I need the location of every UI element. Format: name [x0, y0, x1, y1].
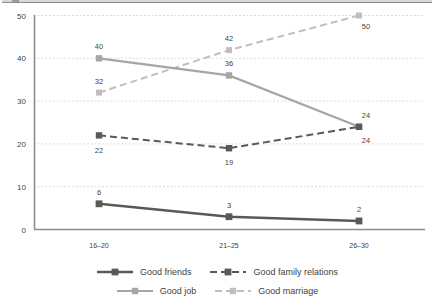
legend-item-good-marriage[interactable]: Good marriage	[214, 286, 318, 296]
series-good-friends: 6 3 2	[96, 188, 363, 224]
legend-label-good-marriage: Good marriage	[258, 286, 318, 296]
x-tick-16-20: 16–20	[89, 242, 109, 249]
legend-item-good-friends[interactable]: Good friends	[96, 267, 192, 277]
series-line-good-family-relations	[99, 127, 359, 148]
legend-item-good-family-relations[interactable]: Good family relations	[209, 267, 338, 277]
y-tick-30: 30	[17, 97, 26, 106]
legend-row-2: Good job Good marriage	[0, 281, 434, 300]
legend-item-good-job[interactable]: Good job	[116, 286, 197, 296]
data-label-good-friends-0: 6	[97, 188, 101, 197]
chart-container: 50 40 30 20 10 0 16–20 21–25 26–30 32 42…	[0, 0, 434, 301]
legend-key-dashed-light-icon	[214, 286, 252, 296]
marker-good-friends-2	[356, 218, 363, 225]
marker-good-marriage-0	[96, 90, 102, 96]
chart-legend: Good friends Good family relations Good …	[0, 262, 434, 301]
data-label-good-family-1: 19	[225, 158, 233, 167]
x-tick-26-30: 26–30	[349, 242, 369, 249]
data-label-good-family-2: 24	[362, 136, 370, 145]
marker-good-marriage-1	[226, 47, 232, 53]
legend-key-dashed-dark-icon	[209, 267, 247, 277]
legend-label-good-family-relations: Good family relations	[253, 267, 338, 277]
legend-label-good-job: Good job	[160, 286, 197, 296]
marker-good-family-0	[96, 132, 102, 138]
line-chart-plot: 50 40 30 20 10 0 16–20 21–25 26–30 32 42…	[0, 0, 434, 262]
x-tick-21-25: 21–25	[219, 242, 239, 249]
marker-good-friends-1	[226, 213, 233, 220]
data-label-good-job-0: 40	[95, 42, 103, 51]
data-label-good-friends-1: 3	[227, 201, 231, 210]
series-good-marriage: 32 42 50	[95, 13, 370, 96]
data-label-good-marriage-0: 32	[95, 77, 103, 86]
marker-good-marriage-2	[356, 13, 362, 19]
data-label-good-friends-2: 2	[357, 205, 361, 214]
legend-key-solid-dark-icon	[96, 267, 134, 277]
marker-good-family-2	[356, 124, 362, 130]
series-line-good-job	[99, 58, 359, 127]
y-tick-0: 0	[22, 226, 27, 235]
data-label-good-job-2: 24	[362, 111, 370, 120]
series-good-family-relations: 22 19 24	[95, 124, 370, 167]
series-good-job: 40 36 24	[95, 42, 370, 130]
data-label-good-job-1: 36	[225, 59, 233, 68]
y-tick-50: 50	[17, 12, 26, 21]
y-tick-20: 20	[17, 140, 26, 149]
data-label-good-marriage-1: 42	[225, 34, 233, 43]
marker-good-friends-0	[96, 200, 103, 207]
legend-row-1: Good friends Good family relations	[0, 262, 434, 281]
data-label-good-family-0: 22	[95, 146, 103, 155]
y-tick-40: 40	[17, 54, 26, 63]
legend-label-good-friends: Good friends	[140, 267, 192, 277]
marker-good-job-1	[226, 72, 232, 78]
data-label-good-marriage-2: 50	[362, 22, 370, 31]
marker-good-job-0	[96, 55, 102, 61]
series-line-good-marriage	[99, 16, 359, 93]
marker-good-family-1	[226, 145, 232, 151]
legend-key-solid-gray-icon	[116, 286, 154, 296]
y-tick-10: 10	[17, 183, 26, 192]
